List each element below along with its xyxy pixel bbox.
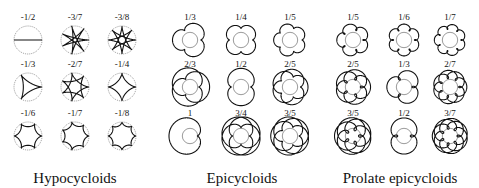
curve-cell: 3/5 bbox=[266, 108, 314, 156]
base-circle bbox=[108, 73, 136, 101]
curve-path bbox=[226, 25, 255, 54]
curve-path bbox=[391, 118, 417, 154]
curve-cell: 1/2 bbox=[380, 108, 428, 156]
epi-curve-icon bbox=[273, 119, 307, 153]
curve-cell: 1/4 bbox=[217, 12, 265, 60]
curve-path bbox=[336, 70, 370, 105]
ratio-label: 1/2 bbox=[380, 108, 428, 118]
hypo-curve-icon bbox=[105, 119, 139, 153]
curve-cell: -1/4 bbox=[98, 59, 146, 107]
base-circle bbox=[182, 32, 197, 47]
curve-cell: 1/2 bbox=[217, 59, 265, 107]
curve-cell: 1/5 bbox=[329, 12, 377, 60]
curve-path bbox=[108, 26, 136, 54]
curve-cell: 3/5 bbox=[329, 108, 377, 156]
ratio-label: -1/6 bbox=[4, 108, 52, 118]
ratio-label: 1/3 bbox=[380, 59, 428, 69]
base-circle bbox=[282, 128, 297, 143]
hypo-curve-icon bbox=[11, 70, 45, 104]
base-circle bbox=[282, 79, 297, 94]
ratio-label: 2/5 bbox=[266, 59, 314, 69]
hypo-curve-icon bbox=[105, 23, 139, 57]
hypo-curve-icon bbox=[58, 23, 92, 57]
curve-path bbox=[271, 117, 309, 155]
base-circle bbox=[345, 32, 360, 47]
curve-path bbox=[228, 68, 254, 105]
base-circle bbox=[396, 32, 411, 47]
curve-cell: -1/7 bbox=[51, 108, 99, 156]
base-circle bbox=[233, 128, 248, 143]
ratio-label: 1/3 bbox=[166, 12, 214, 22]
curve-cell: 1/6 bbox=[380, 12, 428, 60]
curve-path bbox=[389, 24, 418, 56]
base-circle bbox=[233, 32, 248, 47]
ratio-label: 1/5 bbox=[266, 12, 314, 22]
ratio-label: 1/5 bbox=[329, 12, 377, 22]
epi-curve-icon bbox=[173, 23, 207, 57]
base-circle bbox=[14, 73, 42, 101]
base-circle bbox=[182, 79, 197, 94]
curve-cell: 1 bbox=[166, 108, 214, 156]
curve-cell: -1/8 bbox=[98, 108, 146, 156]
curve-cell: 2/7 bbox=[426, 59, 474, 107]
curve-path bbox=[335, 118, 371, 155]
hypo-curve-icon bbox=[105, 70, 139, 104]
panel-caption: Epicycloids bbox=[207, 170, 278, 187]
curve-cell: 3/4 bbox=[217, 108, 265, 156]
prolate-curve-icon bbox=[387, 70, 421, 104]
prolate-curve-icon bbox=[336, 70, 370, 104]
curve-cell: 1/7 bbox=[426, 12, 474, 60]
base-circle bbox=[442, 32, 457, 47]
prolate-curve-icon bbox=[387, 119, 421, 153]
ratio-label: -1/8 bbox=[98, 108, 146, 118]
prolate-curve-icon bbox=[433, 23, 467, 57]
curve-cell: 3/7 bbox=[426, 108, 474, 156]
curve-cell: 2/5 bbox=[329, 59, 377, 107]
epi-curve-icon bbox=[224, 23, 258, 57]
base-circle bbox=[396, 79, 411, 94]
base-circle bbox=[61, 73, 89, 101]
ratio-label: -1/4 bbox=[98, 59, 146, 69]
ratio-label: 1/4 bbox=[217, 12, 265, 22]
curve-cell: 1/3 bbox=[380, 59, 428, 107]
curve-cell: 1/5 bbox=[266, 12, 314, 60]
curve-path bbox=[387, 71, 418, 104]
curve-path bbox=[434, 70, 467, 103]
curve-cell: 2/3 bbox=[166, 59, 214, 107]
curve-path bbox=[169, 118, 201, 154]
curve-path bbox=[14, 124, 42, 148]
ratio-label: 1/7 bbox=[426, 12, 474, 22]
prolate-curve-icon bbox=[433, 70, 467, 104]
ratio-label: -2/7 bbox=[51, 59, 99, 69]
base-circle bbox=[396, 128, 411, 143]
curve-path bbox=[273, 69, 308, 104]
ratio-label: 2/5 bbox=[329, 59, 377, 69]
panel-caption: Prolate epicycloids bbox=[343, 170, 458, 187]
curve-path bbox=[434, 25, 464, 56]
prolate-curve-icon bbox=[336, 23, 370, 57]
curve-path bbox=[173, 23, 205, 56]
ratio-label: -3/8 bbox=[98, 12, 146, 22]
curve-cell: -3/8 bbox=[98, 12, 146, 60]
hypo-curve-icon bbox=[11, 23, 45, 57]
curve-path bbox=[222, 117, 260, 155]
ratio-label: -3/7 bbox=[51, 12, 99, 22]
curve-cell: -1/6 bbox=[4, 108, 52, 156]
prolate-curve-icon bbox=[387, 23, 421, 57]
ratio-label: 1/6 bbox=[380, 12, 428, 22]
curve-cell: -3/7 bbox=[51, 12, 99, 60]
epi-curve-icon bbox=[173, 119, 207, 153]
curve-cell: -1/2 bbox=[4, 12, 52, 60]
curve-cell: -2/7 bbox=[51, 59, 99, 107]
ratio-label: 3/5 bbox=[329, 108, 377, 118]
hypo-curve-icon bbox=[11, 119, 45, 153]
ratio-label: 1/2 bbox=[217, 59, 265, 69]
curve-path bbox=[274, 24, 305, 56]
base-circle bbox=[233, 79, 248, 94]
curve-cell: 2/5 bbox=[266, 59, 314, 107]
ratio-label: 3/7 bbox=[426, 108, 474, 118]
hypo-curve-icon bbox=[58, 70, 92, 104]
ratio-label: 2/7 bbox=[426, 59, 474, 69]
curve-cell: 1/3 bbox=[166, 12, 214, 60]
epi-curve-icon bbox=[224, 70, 258, 104]
